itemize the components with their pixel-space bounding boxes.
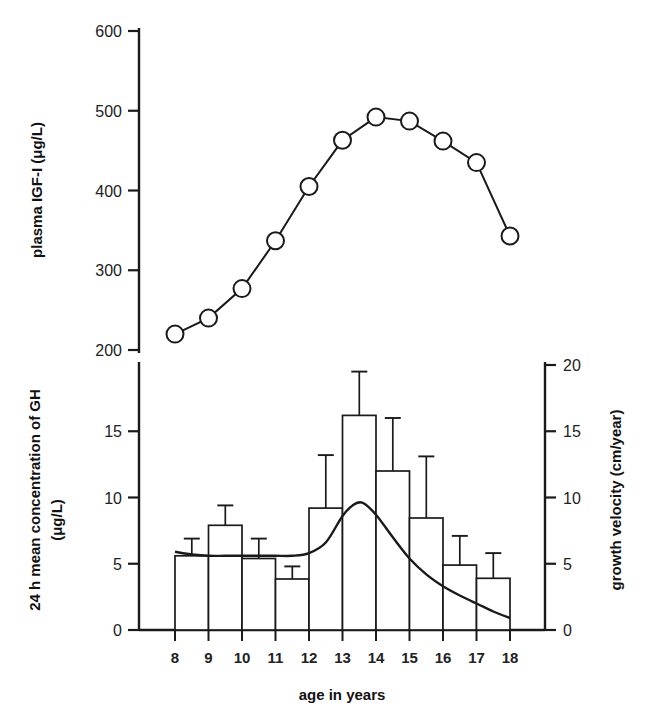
x-tick-label: 8	[171, 649, 179, 666]
top-y-tick-label: 500	[95, 103, 122, 120]
bar	[443, 565, 477, 630]
top-panel: 200300400500600 plasma IGF-I (μg/L)	[28, 23, 519, 359]
top-y-tick-label: 600	[95, 23, 122, 40]
bar	[276, 579, 310, 630]
top-y-tick-label: 400	[95, 183, 122, 200]
igf-data-point	[267, 232, 284, 249]
igf-data-point	[200, 310, 217, 327]
bottom-left-y-axis-label-units: (μg/L)	[48, 499, 65, 541]
igf-data-point	[502, 228, 519, 245]
chart-svg: 200300400500600 plasma IGF-I (μg/L) 0510…	[0, 0, 646, 719]
bottom-left-tick-label: 15	[104, 423, 122, 440]
x-tick-label: 15	[401, 649, 418, 666]
igf-data-point	[401, 113, 418, 130]
bar	[343, 415, 377, 630]
bottom-right-tick-label: 15	[563, 423, 581, 440]
bottom-left-tick-label: 0	[113, 622, 122, 639]
bar	[175, 556, 209, 630]
bar	[209, 525, 243, 630]
bottom-x-tick-marks	[175, 630, 510, 641]
x-tick-label: 14	[368, 649, 385, 666]
bottom-left-y-axis-label: 24 h mean concentration of GH	[26, 389, 43, 611]
bottom-right-tick-labels: 05101520	[563, 357, 581, 639]
x-tick-label: 17	[468, 649, 485, 666]
bottom-left-tick-labels: 051015	[104, 423, 122, 639]
top-y-tick-marks	[128, 31, 139, 350]
top-y-tick-label: 300	[95, 262, 122, 279]
top-y-tick-labels: 200300400500600	[95, 23, 122, 359]
bottom-right-tick-label: 10	[563, 490, 581, 507]
igf-data-point	[368, 109, 385, 126]
x-tick-label: 11	[268, 649, 284, 666]
bottom-right-y-axis-label: growth velocity (cm/year)	[607, 410, 624, 591]
bottom-left-tick-label: 5	[113, 556, 122, 573]
x-tick-label: 9	[204, 649, 212, 666]
figure-container: 200300400500600 plasma IGF-I (μg/L) 0510…	[0, 0, 646, 719]
igf-data-point	[167, 326, 184, 343]
igf-data-point	[301, 178, 318, 195]
bottom-right-tick-marks	[545, 365, 556, 630]
top-y-axis-label: plasma IGF-I (μg/L)	[28, 122, 45, 258]
bottom-right-tick-label: 0	[563, 622, 572, 639]
bar	[376, 471, 410, 630]
bottom-left-tick-label: 10	[104, 490, 122, 507]
igf-data-point	[468, 154, 485, 171]
bottom-x-tick-labels: 89101112131415161718	[171, 649, 519, 666]
bottom-left-tick-marks	[128, 431, 139, 630]
bottom-right-tick-label: 5	[563, 556, 572, 573]
x-tick-label: 13	[334, 649, 351, 666]
bar	[242, 559, 276, 631]
bottom-panel: 051015 05101520 89101112131415161718 24 …	[26, 357, 624, 703]
x-tick-label: 12	[301, 649, 318, 666]
bar	[477, 578, 511, 630]
igf-data-point	[234, 280, 251, 297]
bottom-right-tick-label: 20	[563, 357, 581, 374]
x-tick-label: 18	[502, 649, 519, 666]
igf-data-point	[334, 132, 351, 149]
igf-data-point	[435, 133, 452, 150]
x-axis-label: age in years	[299, 686, 386, 703]
top-y-tick-label: 200	[95, 342, 122, 359]
x-tick-label: 10	[234, 649, 251, 666]
x-tick-label: 16	[435, 649, 452, 666]
